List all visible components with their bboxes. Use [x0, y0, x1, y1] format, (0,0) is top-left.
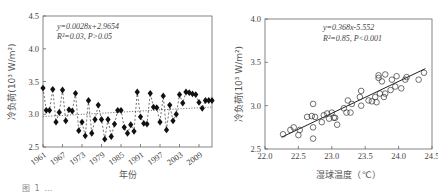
right-chart: 2.53.03.54.022.022.523.023.524.024.5y=0.…: [233, 14, 438, 180]
data-point: [99, 116, 104, 123]
x-tick-label: 1961: [28, 149, 48, 167]
data-point: [196, 99, 201, 106]
data-point: [118, 107, 123, 114]
data-point: [63, 117, 68, 124]
x-tick-label: 22.5: [291, 151, 306, 161]
y-tick-label: 4.0: [28, 44, 39, 54]
y-tick-label: 2.5: [28, 142, 39, 152]
left-chart: 2.53.03.54.04.51961196719731979198519911…: [6, 11, 215, 180]
data-point: [209, 97, 214, 104]
data-point: [358, 103, 364, 109]
x-tick-label: 23.5: [358, 151, 373, 161]
data-point: [180, 100, 185, 107]
data-point: [319, 119, 325, 125]
x-tick-label: 24.5: [425, 151, 438, 161]
data-point: [57, 109, 62, 116]
data-point: [382, 91, 388, 97]
data-point: [167, 102, 172, 109]
data-point: [154, 104, 159, 111]
data-point: [92, 116, 97, 123]
data-point: [381, 94, 387, 100]
data-point: [131, 128, 136, 135]
x-tick-label: 23.0: [324, 151, 339, 161]
data-point: [96, 102, 101, 109]
x-tick-label: 1985: [106, 149, 126, 167]
y-axis-label: 冷负荷(10³ W/m²): [233, 46, 244, 122]
data-point: [73, 90, 78, 97]
data-point: [334, 122, 340, 128]
regression-equation: y=0.368x-5.552: [322, 23, 374, 32]
trend-line: [282, 69, 426, 138]
data-point: [379, 79, 385, 85]
data-point: [193, 91, 198, 98]
y-tick-label: 3.0: [250, 101, 261, 111]
data-point: [310, 125, 316, 131]
data-point: [157, 119, 162, 126]
data-point: [296, 132, 302, 138]
data-point: [161, 93, 166, 100]
x-tick-label: 1997: [145, 149, 165, 167]
data-point: [122, 124, 127, 131]
data-point: [312, 114, 318, 120]
x-tick-label: 2003: [165, 149, 185, 167]
data-point: [357, 94, 363, 100]
x-tick-label: 1967: [48, 149, 68, 167]
data-point: [135, 89, 140, 96]
data-point: [394, 73, 400, 79]
data-point: [109, 133, 114, 140]
data-point: [79, 119, 84, 126]
data-point: [148, 90, 153, 97]
data-point: [89, 130, 94, 137]
data-point: [358, 88, 364, 94]
data-point: [125, 130, 130, 137]
data-point: [200, 105, 205, 112]
data-point: [144, 121, 149, 128]
data-point: [416, 77, 422, 83]
x-tick-label: 2009: [184, 149, 204, 167]
chart-canvas: 2.53.03.54.04.51961196719731979198519911…: [0, 0, 438, 194]
data-point: [310, 136, 316, 142]
data-point: [138, 113, 143, 120]
x-axis-label: 湿球温度（℃）: [316, 169, 380, 180]
x-tick-label: 22.0: [258, 151, 273, 161]
data-point: [128, 121, 133, 128]
data-point: [40, 85, 45, 92]
data-point: [382, 72, 388, 78]
x-tick-label: 1991: [126, 149, 146, 167]
data-point: [102, 136, 107, 143]
data-point: [105, 116, 110, 123]
regression-stats: R²=0.03, P>0.05: [56, 32, 112, 41]
y-tick-label: 4.0: [250, 14, 261, 24]
data-point: [47, 107, 52, 114]
y-tick-label: 3.5: [250, 57, 261, 67]
data-point: [398, 86, 404, 92]
y-tick-label: 4.5: [28, 11, 39, 21]
data-point: [421, 70, 427, 76]
data-point: [174, 111, 179, 118]
data-point: [332, 115, 338, 121]
data-point: [53, 119, 58, 126]
data-point: [76, 127, 81, 134]
data-point: [310, 101, 316, 107]
y-tick-label: 3.5: [28, 77, 39, 87]
figure-caption: 图 1 …: [22, 182, 53, 193]
data-point: [164, 127, 169, 134]
data-point: [170, 117, 175, 124]
data-point: [392, 84, 398, 90]
y-axis-label: 冷负荷(10³ W/m²): [6, 43, 17, 119]
data-point: [348, 110, 354, 116]
data-point: [50, 86, 55, 93]
x-tick-label: 24.0: [391, 151, 406, 161]
data-point: [177, 91, 182, 98]
data-point: [112, 121, 117, 128]
data-point: [86, 97, 91, 104]
x-tick-label: 1973: [67, 149, 87, 167]
data-point: [60, 87, 65, 94]
y-tick-label: 3.0: [28, 109, 39, 119]
data-point: [83, 132, 88, 139]
regression-equation: y=0.0028x+2.9654: [56, 22, 119, 31]
x-tick-label: 1979: [87, 149, 107, 167]
x-axis-label: 年份: [119, 169, 137, 180]
regression-stats: R²=0.85, P<0.001: [322, 34, 382, 43]
